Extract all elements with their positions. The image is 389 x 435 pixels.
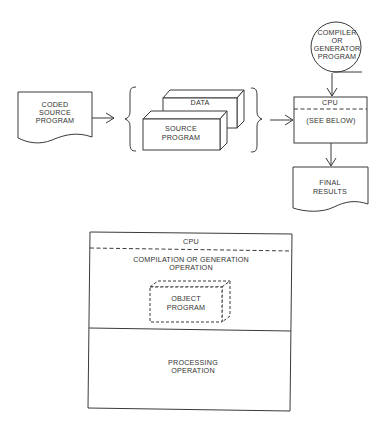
object-program-label-2: PROGRAM — [167, 303, 206, 312]
final-results-label-1: FINAL — [319, 178, 340, 187]
compiler-label-4: PROGRAM — [318, 52, 357, 61]
processing-label-2: OPERATION — [171, 366, 215, 375]
arrow-right-icon — [92, 113, 114, 123]
object-program-label-1: OBJECT — [171, 294, 201, 303]
coded-source-label-3: PROGRAM — [36, 116, 75, 125]
compiler-program-circle: COMPILER OR GENERATOR PROGRAM — [311, 22, 362, 72]
arrow-right-icon — [270, 115, 293, 125]
cpu-box-body: (SEE BELOW) — [306, 116, 355, 125]
coded-source-program-document: CODED SOURCE PROGRAM — [18, 92, 92, 143]
right-brace — [251, 88, 262, 152]
source-program-label-1: SOURCE — [165, 124, 197, 133]
final-results-label-2: RESULTS — [313, 187, 347, 196]
compilation-label-2: OPERATION — [169, 263, 213, 272]
cpu-detail-title: CPU — [183, 237, 199, 246]
left-brace — [125, 87, 136, 151]
object-program-box: OBJECT PROGRAM — [150, 281, 230, 322]
arrow-down-icon — [327, 73, 337, 96]
source-program-label-2: PROGRAM — [162, 133, 201, 142]
data-label: DATA — [191, 98, 210, 107]
arrow-down-icon — [326, 143, 336, 166]
cpu-detail-box: CPU COMPILATION OR GENERATION OPERATION … — [88, 232, 292, 411]
flowchart-diagram: CODED SOURCE PROGRAM DATA SOURCE PROGRAM… — [0, 0, 389, 435]
source-program-box: SOURCE PROGRAM — [143, 111, 227, 150]
cpu-box-title: CPU — [322, 98, 338, 107]
final-results-document: FINAL RESULTS — [293, 167, 368, 211]
cpu-box: CPU (SEE BELOW) — [294, 97, 367, 143]
